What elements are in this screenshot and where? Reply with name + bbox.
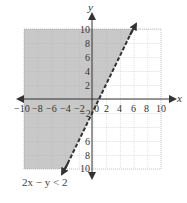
x-tick: −8 <box>32 103 43 114</box>
x-tick: 2 <box>104 103 109 114</box>
x-tick: −6 <box>46 103 57 114</box>
y-tick: 6 <box>85 136 90 147</box>
y-tick: 6 <box>85 52 90 63</box>
inequality-graph: y x −10 −8 −6 −4 −2 0 2 4 6 8 10 10 8 6 … <box>0 0 187 203</box>
x-tick: 10 <box>156 103 166 114</box>
inequality-label: 2x − y < 2 <box>22 176 67 188</box>
x-tick: −10 <box>14 103 30 114</box>
y-tick: 4 <box>85 66 90 77</box>
x-axis-label: x <box>176 92 182 104</box>
y-tick: 10 <box>80 163 90 174</box>
y-tick: 2 <box>85 80 90 91</box>
x-tick: 6 <box>131 103 136 114</box>
y-tick: 8 <box>85 150 90 161</box>
y-axis-label: y <box>87 1 93 13</box>
y-tick: 10 <box>80 24 90 35</box>
x-tick: 8 <box>144 103 149 114</box>
y-tick: −2 <box>80 108 91 119</box>
origin-label: 0 <box>94 103 99 114</box>
x-tick: −4 <box>60 103 71 114</box>
y-tick: 8 <box>85 38 90 49</box>
x-tick: 4 <box>117 103 122 114</box>
